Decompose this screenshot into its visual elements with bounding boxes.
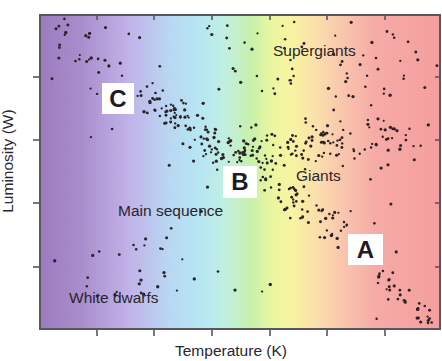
star-dot [165,236,168,239]
star-dot [386,163,389,166]
star-dot [377,282,379,284]
star-dot [162,89,164,91]
star-dot [389,126,392,129]
star-dot [320,210,322,212]
star-dot [278,188,281,191]
star-dot [239,81,242,84]
star-dot [343,226,345,228]
star-dot [259,166,262,169]
star-dot [276,78,279,81]
star-dot [430,321,433,324]
star-dot [139,90,142,93]
star-dot [206,185,209,188]
star-dot [308,136,311,139]
star-dot [328,213,331,216]
star-dot [185,103,187,105]
star-dot [162,248,164,250]
star-dot [367,123,370,126]
star-dot [142,110,145,113]
star-dot [97,58,100,61]
star-dot [383,92,385,94]
star-dot [216,168,218,170]
star-dot [339,120,341,122]
star-dot [336,139,338,141]
star-dot [295,145,298,148]
star-dot [188,146,191,149]
star-dot [212,136,215,139]
star-dot [375,318,377,320]
star-dot [228,161,230,163]
star-dot [239,125,241,127]
star-dot [199,135,202,138]
star-dot [315,204,317,206]
star-dot [217,88,220,91]
star-dot [294,149,296,151]
star-dot [395,250,398,253]
star-dot [132,244,135,247]
star-dot [377,275,380,278]
star-dot [273,92,276,95]
star-dot [179,116,182,119]
star-dot [272,144,274,146]
star-dot [176,289,178,291]
star-dot [140,94,143,97]
star-dot [270,133,273,136]
star-dot [253,137,256,140]
star-dot [217,270,220,273]
star-dot [226,24,229,27]
star-dot [138,282,141,285]
star-dot [301,216,304,219]
star-dot [353,150,356,153]
star-dot [283,164,286,167]
star-dot [210,151,212,153]
star-dot [266,161,269,164]
star-dot [423,86,426,89]
star-dot [384,128,387,131]
star-dot [322,131,324,133]
star-dot [393,284,396,287]
star-dot [323,141,326,144]
star-dot [228,137,230,139]
star-dot [208,25,210,27]
star-dot [329,152,331,154]
star-dot [118,253,121,256]
star-dot [327,87,330,90]
main-sequence-label: Main sequence [118,203,223,219]
star-dot [206,27,208,29]
star-dot [212,162,214,164]
star-dot [386,30,389,33]
star-dot [308,194,310,196]
star-dot [259,179,261,181]
star-dot [393,127,396,130]
star-dot [273,134,276,137]
star-dot [350,21,353,24]
star-dot [63,18,66,21]
star-dot [336,246,339,249]
supergiants-label: Supergiants [273,43,356,59]
point-a-label: A [348,234,383,265]
star-dot [294,189,297,192]
star-dot [419,145,421,147]
star-dot [249,154,251,156]
star-dot [272,87,274,89]
star-dot [332,141,334,143]
star-dot [270,186,272,188]
star-dot [329,142,332,145]
star-dot [183,116,186,119]
star-dot [293,204,296,207]
star-dot [331,216,334,219]
star-dot [164,110,167,113]
star-dot [196,114,199,117]
star-dot [172,105,174,107]
x-axis-label: Temperature (K) [175,343,287,359]
star-dot [200,143,203,146]
y-axis-label: Luminosity (W) [0,129,16,213]
star-dot [96,93,98,95]
star-dot [382,136,384,138]
star-dot [385,288,387,290]
star-dot [349,132,351,134]
star-dot [151,82,153,84]
star-dot [301,208,303,210]
star-dot [264,154,266,156]
star-dot [353,157,355,159]
